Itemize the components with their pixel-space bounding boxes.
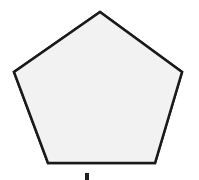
caption-glyph-fragment [85, 173, 89, 180]
pentagon-figure [0, 0, 199, 180]
pentagon-halftone-fill [0, 0, 199, 180]
figure-canvas [0, 0, 199, 180]
